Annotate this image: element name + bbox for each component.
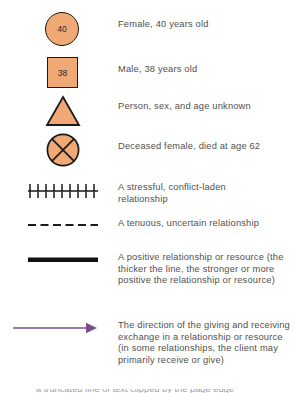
deceased-female-circle-x-icon xyxy=(45,132,81,168)
legend-row-tenuous-line: A tenuous, uncertain relationship xyxy=(0,216,295,242)
symbol-cell: 38 xyxy=(0,54,108,94)
unknown-person-triangle-icon xyxy=(44,94,82,128)
legend-description: Female, 40 years old xyxy=(118,19,290,31)
legend-row-deceased-female: Deceased female, died at age 62 xyxy=(0,130,295,172)
direction-arrow-icon xyxy=(12,321,98,335)
legend-row-unknown-person: Person, sex, and age unknown xyxy=(0,92,295,132)
symbol-cell: 40 xyxy=(0,6,108,52)
clipped-bottom-text-strip: a truncated line of text clipped by the … xyxy=(0,389,295,393)
male-square-icon: 38 xyxy=(47,57,78,88)
symbol-cell xyxy=(0,92,108,132)
symbol-cell xyxy=(0,318,108,388)
legend-description: A stressful, conflict-laden relationship xyxy=(118,182,268,205)
symbol-cell xyxy=(0,216,108,242)
legend-row-direction-arrow: The direction of the giving and receivin… xyxy=(0,318,295,388)
legend-description: Person, sex, and age unknown xyxy=(118,101,290,113)
symbol-cell xyxy=(0,180,108,210)
clipped-bottom-text: a truncated line of text clipped by the … xyxy=(36,389,234,393)
thick-positive-line-icon xyxy=(27,256,99,264)
dashed-tenuous-line-icon xyxy=(27,221,99,229)
legend-description: The direction of the giving and receivin… xyxy=(118,320,290,366)
female-circle-icon: 40 xyxy=(45,12,79,46)
symbol-cell xyxy=(0,130,108,172)
legend-row-male-38: 38 Male, 38 years old xyxy=(0,54,295,94)
symbol-cell xyxy=(0,250,108,308)
legend-description: A tenuous, uncertain relationship xyxy=(118,218,290,230)
legend-description: A positive relationship or resource (the… xyxy=(118,252,290,287)
legend-row-positive-line: A positive relationship or resource (the… xyxy=(0,250,295,308)
legend-description: Male, 38 years old xyxy=(118,64,290,76)
female-age-label: 40 xyxy=(46,13,78,45)
legend-container: 40 Female, 40 years old 38 Male, 38 year… xyxy=(0,0,295,393)
legend-row-female-40: 40 Female, 40 years old xyxy=(0,6,295,52)
legend-description: Deceased female, died at age 62 xyxy=(118,141,290,153)
legend-row-conflict-line: A stressful, conflict-laden relationship xyxy=(0,180,295,210)
male-age-label: 38 xyxy=(48,58,77,87)
hatched-conflict-line-icon xyxy=(27,182,99,200)
